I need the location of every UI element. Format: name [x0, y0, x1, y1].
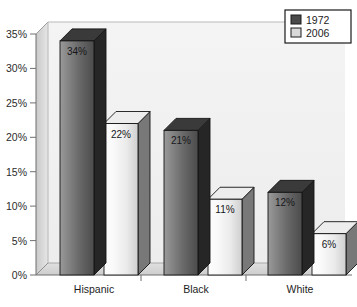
bar-side-face — [198, 118, 210, 275]
bar-value-label: 12% — [275, 197, 295, 208]
y-tick-label-30: 30% — [6, 62, 27, 74]
bar-side-face — [242, 187, 254, 275]
legend-item-1972[interactable]: 1972 — [291, 14, 330, 26]
bar-black-1972: 21% — [164, 118, 210, 275]
legend[interactable]: 1972 2006 — [285, 10, 351, 43]
bar-side-face — [302, 180, 314, 275]
bar-front-face — [164, 130, 198, 275]
bar-value-label: 34% — [67, 46, 87, 57]
category-label-black: Black — [183, 283, 209, 295]
legend-item-2006[interactable]: 2006 — [291, 27, 330, 39]
y-tick-label-5: 5% — [12, 235, 27, 247]
y-tick-label-10: 10% — [6, 200, 27, 212]
bar-hispanic-2006: 22% — [104, 112, 150, 275]
legend-label-1972: 1972 — [306, 14, 330, 26]
y-tick-label-0: 0% — [12, 269, 27, 281]
bar-chart: 35% 30% 25% 20% 15% 10% 5% 0% 22%34%11%2… — [0, 0, 357, 307]
legend-swatch-2006 — [291, 28, 301, 37]
bar-white-1972: 12% — [268, 180, 314, 275]
category-label-hispanic: Hispanic — [74, 283, 114, 295]
y-tick-label-20: 20% — [6, 131, 27, 143]
bar-front-face — [60, 41, 94, 275]
bar-value-label: 6% — [322, 239, 337, 250]
bar-black-2006: 11% — [208, 187, 254, 275]
y-tick-label-35: 35% — [6, 28, 27, 40]
y-tick-label-15: 15% — [6, 166, 27, 178]
plot-left-wall — [36, 22, 48, 275]
bar-side-face — [138, 112, 150, 275]
chart-canvas: 35% 30% 25% 20% 15% 10% 5% 0% 22%34%11%2… — [0, 0, 357, 307]
bar-value-label: 22% — [111, 129, 131, 140]
bar-value-label: 11% — [215, 204, 234, 215]
bar-white-2006: 6% — [312, 222, 357, 275]
y-tick-label-25: 25% — [6, 97, 27, 109]
category-label-white: White — [287, 283, 314, 295]
bar-value-label: 21% — [171, 135, 191, 146]
legend-label-2006: 2006 — [306, 27, 330, 39]
legend-swatch-1972 — [291, 15, 301, 24]
bar-hispanic-1972: 34% — [60, 29, 106, 275]
bar-front-face — [104, 124, 138, 275]
bar-side-face — [94, 29, 106, 275]
